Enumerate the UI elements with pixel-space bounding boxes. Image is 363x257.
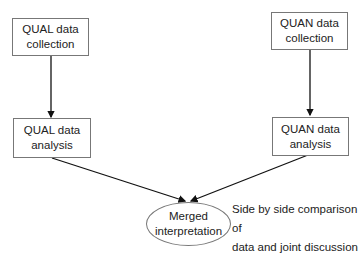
quan-data-collection-box: QUAN data collection [271,12,348,50]
merged-line1: Merged [155,209,222,224]
arrow-quan-analysis-to-merged [191,155,308,201]
quan-collection-line1: QUAN data [280,16,339,31]
annotation-line1: Side by side comparison of [232,200,363,238]
qual-data-analysis-box: QUAL data analysis [13,118,91,158]
qual-data-collection-box: QUAL data collection [12,18,89,56]
quan-data-analysis-box: QUAN data analysis [272,117,349,156]
quan-analysis-line2: analysis [281,137,340,152]
quan-collection-line2: collection [280,31,339,46]
merged-line2: interpretation [155,224,222,239]
quan-analysis-line1: QUAN data [281,122,340,137]
qual-analysis-line2: analysis [24,138,80,153]
qual-collection-line2: collection [22,37,78,52]
qual-analysis-line1: QUAL data [24,123,80,138]
merged-interpretation-ellipse: Merged interpretation [146,202,231,246]
merge-annotation: Side by side comparison of data and join… [232,200,363,257]
arrow-qual-analysis-to-merged [52,158,185,201]
qual-collection-line1: QUAL data [22,22,78,37]
annotation-line2: data and joint discussion [232,238,363,257]
